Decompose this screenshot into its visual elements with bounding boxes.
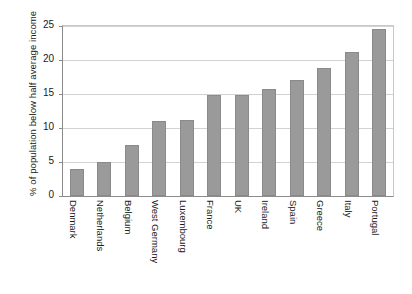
bar [262, 89, 276, 196]
x-axis-category-labels: DenmarkNetherlandsBelgiumWest GermanyLux… [62, 196, 392, 294]
bar [180, 120, 194, 196]
x-axis-label: UK [230, 200, 246, 294]
x-axis-label: Netherlands [92, 200, 108, 294]
y-tick-label-0: 0 [30, 190, 58, 200]
x-axis-label: Spain [285, 200, 301, 294]
bar [125, 145, 139, 196]
x-axis-label: Ireland [257, 200, 273, 294]
y-tick-label-10: 10 [30, 122, 58, 132]
y-tick-label-25: 25 [30, 20, 58, 30]
y-axis-tick-labels: 0510152025 [30, 0, 58, 294]
x-axis-label: Belgium [120, 200, 136, 294]
y-tick-label-20: 20 [30, 54, 58, 64]
bar-chart: % of population below half average incom… [0, 0, 412, 294]
y-tick-label-15: 15 [30, 88, 58, 98]
bar [290, 80, 304, 196]
bar [70, 169, 84, 196]
bar-series [63, 26, 393, 196]
bar [345, 52, 359, 196]
y-tick-label-5: 5 [30, 156, 58, 166]
x-axis-label: Luxembourg [175, 200, 191, 294]
bar [235, 95, 249, 196]
x-axis-label: Greece [312, 200, 328, 294]
x-axis-label: Denmark [65, 200, 81, 294]
x-axis-label: Italy [340, 200, 356, 294]
x-axis-label: Portugal [367, 200, 383, 294]
bar [372, 29, 386, 196]
x-axis-label: West Germany [147, 200, 163, 294]
bar [97, 162, 111, 196]
plot-area [62, 25, 394, 197]
bar [152, 121, 166, 196]
bar [317, 68, 331, 196]
x-axis-label: France [202, 200, 218, 294]
bar [207, 95, 221, 196]
